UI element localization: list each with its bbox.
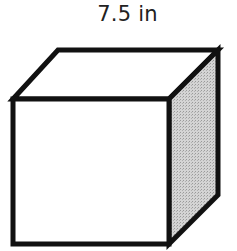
cube-diagram <box>0 0 237 251</box>
cube-figure <box>0 0 237 251</box>
edge-length-label: 7.5 in <box>0 2 237 26</box>
cube-front-face <box>13 99 169 244</box>
